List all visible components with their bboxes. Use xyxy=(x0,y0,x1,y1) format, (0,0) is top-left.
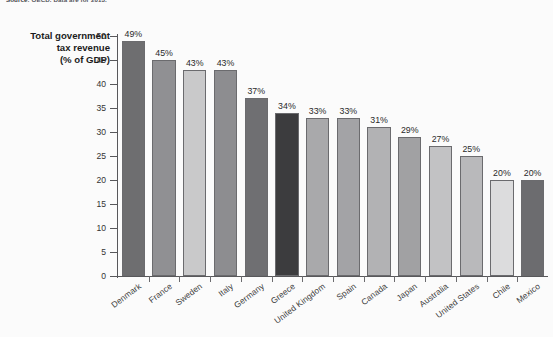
y-axis-tick-labels: 05101520253035404550 xyxy=(82,0,106,337)
x-axis-tick xyxy=(425,276,426,282)
x-axis-category-label: Mexico xyxy=(515,281,543,305)
y-axis-tick xyxy=(110,108,117,109)
bar[interactable] xyxy=(245,98,268,276)
bar-value-label: 29% xyxy=(388,126,431,135)
y-axis-tick-label: 10 xyxy=(84,224,106,233)
bar[interactable] xyxy=(152,60,175,276)
bar[interactable] xyxy=(521,180,544,276)
bar[interactable] xyxy=(183,70,206,276)
y-axis-tick xyxy=(110,180,117,181)
y-axis-tick-label: 45 xyxy=(84,56,106,65)
y-axis-tick xyxy=(110,156,117,157)
bar-group: 27% xyxy=(429,36,452,276)
bar[interactable] xyxy=(398,137,421,276)
x-axis-tick xyxy=(394,276,395,282)
y-axis-tick xyxy=(110,228,117,229)
bar[interactable] xyxy=(367,127,390,276)
y-axis-tick xyxy=(110,132,117,133)
y-axis-tick xyxy=(110,204,117,205)
y-axis-tick-label: 30 xyxy=(84,128,106,137)
bar-group: 45% xyxy=(152,36,175,276)
x-axis-tick xyxy=(179,276,180,282)
x-axis-category-label: Sweden xyxy=(174,281,205,308)
bar-value-label: 49% xyxy=(112,30,155,39)
bar-group: 31% xyxy=(367,36,390,276)
bar-value-label: 20% xyxy=(511,169,553,178)
x-axis-category-label: Chile xyxy=(490,281,512,301)
x-axis-line xyxy=(112,276,548,277)
bar[interactable] xyxy=(122,41,145,276)
x-axis-category-label: France xyxy=(146,281,173,305)
x-axis-category-label: Denmark xyxy=(109,281,143,310)
bar-value-label: 25% xyxy=(450,145,493,154)
x-axis-tick xyxy=(302,276,303,282)
y-axis-tick xyxy=(110,276,117,277)
bar-group: 43% xyxy=(214,36,237,276)
bar-group: 20% xyxy=(490,36,513,276)
x-axis-tick xyxy=(149,276,150,282)
y-axis-tick-label: 0 xyxy=(84,272,106,281)
bar-value-label: 45% xyxy=(142,49,185,58)
bar[interactable] xyxy=(306,118,329,276)
bar[interactable] xyxy=(429,146,452,276)
bar-value-label: 43% xyxy=(204,59,247,68)
x-axis-tick xyxy=(456,276,457,282)
bar-value-label: 31% xyxy=(357,116,400,125)
bar[interactable] xyxy=(214,70,237,276)
bar[interactable] xyxy=(337,118,360,276)
y-axis-tick-label: 50 xyxy=(84,32,106,41)
y-axis-tick-label: 20 xyxy=(84,176,106,185)
x-axis-tick xyxy=(364,276,365,282)
plot-area: 49%45%43%43%37%34%33%33%31%29%27%25%20%2… xyxy=(118,36,548,276)
x-axis-category-label: Germany xyxy=(232,281,266,310)
chart-figure: Source: OECD. Data are for 2013. Total g… xyxy=(0,0,553,337)
x-axis-category-label: Italy xyxy=(216,281,235,299)
bar-group: 33% xyxy=(306,36,329,276)
x-axis-category-label: Spain xyxy=(335,281,359,302)
y-axis-tick xyxy=(110,252,117,253)
source-label: Source: xyxy=(6,0,30,3)
bar-group: 20% xyxy=(521,36,544,276)
y-axis-tick-label: 15 xyxy=(84,200,106,209)
bar-value-label: 37% xyxy=(235,87,278,96)
y-axis-tick-label: 25 xyxy=(84,152,106,161)
bar-value-label: 27% xyxy=(419,135,462,144)
x-axis-tick xyxy=(210,276,211,282)
x-axis-tick xyxy=(517,276,518,282)
y-axis-tick-label: 40 xyxy=(84,80,106,89)
y-axis-tick xyxy=(110,84,117,85)
bar[interactable] xyxy=(490,180,513,276)
x-axis-tick xyxy=(333,276,334,282)
bar[interactable] xyxy=(275,113,298,276)
x-axis-tick xyxy=(241,276,242,282)
bar-value-label: 33% xyxy=(327,107,370,116)
y-axis-tick-label: 5 xyxy=(84,248,106,257)
bar-group: 49% xyxy=(122,36,145,276)
x-axis-tick xyxy=(272,276,273,282)
y-axis-tick-label: 35 xyxy=(84,104,106,113)
x-axis-tick xyxy=(487,276,488,282)
y-axis-tick xyxy=(110,60,117,61)
bar-group: 25% xyxy=(460,36,483,276)
bar-group: 29% xyxy=(398,36,421,276)
bar-group: 33% xyxy=(337,36,360,276)
x-axis-category-label: Japan xyxy=(395,281,420,303)
bar-group: 37% xyxy=(245,36,268,276)
bar-group: 43% xyxy=(183,36,206,276)
x-axis-category-label: Canada xyxy=(359,281,389,307)
bar-group: 34% xyxy=(275,36,298,276)
